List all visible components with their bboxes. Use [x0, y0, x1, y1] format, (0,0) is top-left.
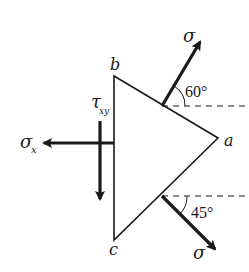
- tau-xy-subscript: xy: [99, 106, 110, 116]
- vertex-label-b: b: [110, 55, 120, 74]
- vertex-label-c: c: [109, 240, 118, 259]
- angle-label-60: 60°: [185, 83, 207, 100]
- vertex-label-a: a: [224, 131, 234, 150]
- angle-label-45: 45°: [191, 204, 213, 221]
- sigma-label-upper: σ: [183, 25, 196, 46]
- stress-diagram: b a c σ σ σ x τ xy 60° 45°: [0, 0, 249, 272]
- angle-arc-60: [174, 86, 185, 106]
- angle-arc-45: [180, 196, 187, 214]
- sigma-label-lower: σ: [193, 242, 206, 263]
- sigma-x-subscript: x: [31, 144, 37, 155]
